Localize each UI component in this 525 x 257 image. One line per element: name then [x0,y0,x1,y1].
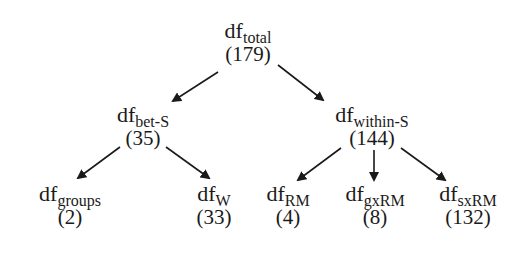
label-base: df [335,102,353,127]
label-base: df [345,181,363,206]
node-value: (35) [73,128,213,149]
node-df-total: dftotal (179) [178,20,318,65]
node-value: (144) [302,128,442,149]
node-df-sxrm: dfsxRM (132) [398,183,525,228]
label-base: df [439,181,457,206]
node-label: dfsxRM [398,183,525,205]
node-df-within-s: dfwithin-S (144) [302,104,442,149]
node-value: (179) [178,44,318,65]
edge-total-bet [173,72,218,101]
label-base: df [117,102,135,127]
edge-within-rm [298,148,341,180]
label-base: df [39,181,57,206]
node-df-groups: dfgroups (2) [0,183,140,228]
label-base: df [266,181,284,206]
node-value: (2) [0,207,140,228]
label-base: df [197,181,215,206]
node-label: dftotal [178,20,318,42]
edge-bet-groups [78,147,120,178]
label-base: df [225,18,243,43]
node-label: dfbet-S [73,104,213,126]
node-df-bet-s: dfbet-S (35) [73,104,213,149]
node-label: dfwithin-S [302,104,442,126]
node-value: (132) [398,207,525,228]
edge-within-sxrm [401,148,445,180]
node-label: dfgroups [0,183,140,205]
edge-bet-w [166,147,209,178]
edge-total-within [278,65,323,100]
